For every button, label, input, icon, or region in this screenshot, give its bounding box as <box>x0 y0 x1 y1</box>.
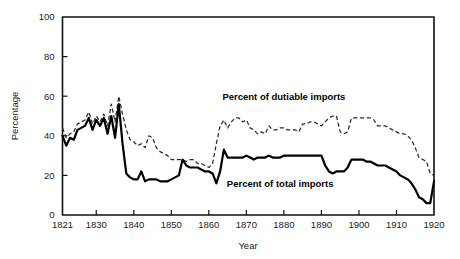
chart-container: 1821183018401850186018701880189019001910… <box>0 0 460 259</box>
series-annotation-1: Percent of dutiable imports <box>222 91 345 102</box>
x-tick-label: 1821 <box>52 219 73 230</box>
x-tick-label: 1830 <box>86 219 107 230</box>
x-tick-label: 1870 <box>236 219 257 230</box>
x-tick-label: 1920 <box>423 219 444 230</box>
x-tick-label: 1840 <box>123 219 144 230</box>
x-tick-label: 1890 <box>311 219 332 230</box>
series-annotation-2: Percent of total imports <box>227 178 334 189</box>
x-tick-label: 1900 <box>348 219 369 230</box>
y-tick-label: 40 <box>44 130 55 141</box>
y-tick-label: 60 <box>44 91 55 102</box>
x-tick-label: 1880 <box>273 219 294 230</box>
y-tick-label: 20 <box>44 170 55 181</box>
y-axis-title: Percentage <box>9 92 20 141</box>
x-axis-title: Year <box>238 240 257 251</box>
x-tick-label: 1860 <box>198 219 219 230</box>
y-tick-label: 80 <box>44 51 55 62</box>
y-tick-label: 100 <box>39 11 55 22</box>
x-tick-label: 1850 <box>161 219 182 230</box>
y-tick-label: 0 <box>49 209 54 220</box>
x-tick-label: 1910 <box>386 219 407 230</box>
imports-tariff-line-chart: 1821183018401850186018701880189019001910… <box>0 0 460 259</box>
